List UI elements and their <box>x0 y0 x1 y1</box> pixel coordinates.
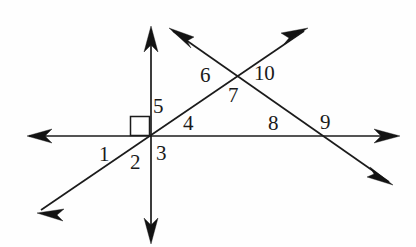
falling-diagonal-group <box>169 28 393 185</box>
diagram-canvas: 1 2 3 4 5 6 7 8 9 10 <box>0 0 416 247</box>
angle-label-3: 3 <box>156 143 167 164</box>
angle-label-9: 9 <box>320 112 331 133</box>
angle-label-4: 4 <box>183 113 194 134</box>
angle-label-10: 10 <box>254 63 275 84</box>
angle-label-6: 6 <box>200 65 211 86</box>
horizontal-line-group <box>27 129 400 143</box>
angle-label-7: 7 <box>228 85 239 106</box>
rising-diagonal-lower-left-arrowhead <box>37 209 64 221</box>
angle-label-8: 8 <box>268 113 279 134</box>
angle-label-1: 1 <box>99 144 110 165</box>
rising-diagonal-upper-right-arrowhead <box>281 28 308 44</box>
geometry-drawing <box>0 0 416 247</box>
angle-label-2: 2 <box>130 152 141 173</box>
rising-diagonal-line <box>41 31 304 210</box>
falling-diagonal-upper-left-arrowhead <box>169 28 194 48</box>
right-angle-square <box>131 117 150 136</box>
angle-label-5: 5 <box>153 96 164 117</box>
falling-diagonal-line <box>173 31 389 182</box>
